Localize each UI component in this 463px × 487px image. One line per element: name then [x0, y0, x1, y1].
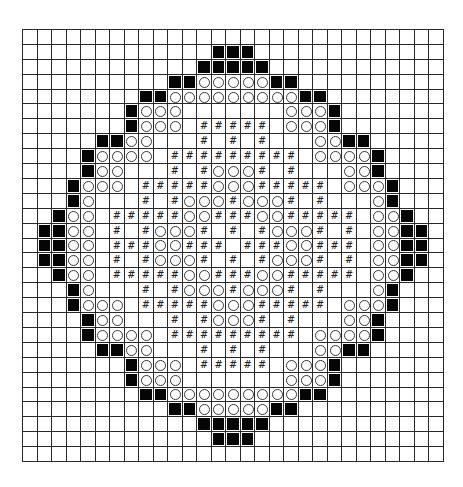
empty-cell [51, 416, 66, 431]
empty-cell [124, 446, 139, 461]
empty-cell [211, 133, 226, 148]
filled-square-icon [95, 133, 110, 148]
circle-icon [138, 372, 153, 387]
hash-icon [341, 223, 356, 238]
filled-square-icon [283, 401, 298, 416]
empty-cell [298, 342, 313, 357]
empty-cell [370, 59, 385, 74]
empty-cell [138, 44, 153, 59]
empty-cell [327, 74, 342, 89]
empty-cell [341, 357, 356, 372]
empty-cell [124, 89, 139, 104]
empty-cell [22, 208, 37, 223]
empty-cell [37, 282, 52, 297]
empty-cell [196, 431, 211, 446]
circle-icon [95, 312, 110, 327]
empty-cell [22, 193, 37, 208]
filled-square-icon [240, 431, 255, 446]
hash-icon [254, 133, 269, 148]
filled-square-icon [370, 163, 385, 178]
circle-icon [240, 312, 255, 327]
filled-square-icon [37, 252, 52, 267]
hash-icon [283, 297, 298, 312]
hash-icon [196, 297, 211, 312]
hash-icon [211, 208, 226, 223]
empty-cell [51, 44, 66, 59]
circle-icon [167, 252, 182, 267]
filled-square-icon [399, 208, 414, 223]
empty-cell [356, 223, 371, 238]
circle-icon [80, 297, 95, 312]
empty-cell [37, 163, 52, 178]
empty-cell [22, 163, 37, 178]
empty-cell [66, 401, 81, 416]
empty-cell [153, 342, 168, 357]
empty-cell [109, 118, 124, 133]
empty-cell [153, 193, 168, 208]
circle-icon [182, 223, 197, 238]
empty-cell [414, 133, 429, 148]
empty-cell [95, 416, 110, 431]
circle-icon [356, 178, 371, 193]
hash-icon [269, 297, 284, 312]
empty-cell [399, 372, 414, 387]
empty-cell [414, 416, 429, 431]
empty-cell [356, 238, 371, 253]
empty-cell [182, 163, 197, 178]
circle-icon [298, 103, 313, 118]
circle-icon [225, 163, 240, 178]
empty-cell [80, 118, 95, 133]
filled-square-icon [370, 327, 385, 342]
empty-cell [182, 133, 197, 148]
hash-icon [327, 267, 342, 282]
empty-cell [428, 133, 443, 148]
circle-icon [283, 372, 298, 387]
empty-cell [66, 327, 81, 342]
circle-icon [327, 327, 342, 342]
circle-icon [356, 312, 371, 327]
empty-cell [153, 29, 168, 44]
empty-cell [37, 312, 52, 327]
filled-square-icon [80, 327, 95, 342]
empty-cell [138, 446, 153, 461]
circle-icon [225, 387, 240, 402]
empty-cell [399, 44, 414, 59]
hash-icon [225, 342, 240, 357]
empty-cell [95, 193, 110, 208]
empty-cell [327, 401, 342, 416]
circle-icon [167, 223, 182, 238]
empty-cell [109, 401, 124, 416]
empty-cell [138, 29, 153, 44]
empty-cell [182, 59, 197, 74]
filled-square-icon [153, 89, 168, 104]
hash-icon [138, 223, 153, 238]
empty-cell [312, 29, 327, 44]
hash-icon [196, 148, 211, 163]
circle-icon [196, 193, 211, 208]
empty-cell [95, 431, 110, 446]
empty-cell [51, 312, 66, 327]
empty-cell [240, 446, 255, 461]
empty-cell [327, 223, 342, 238]
empty-cell [80, 387, 95, 402]
filled-square-icon [124, 357, 139, 372]
hash-icon [254, 312, 269, 327]
hash-icon [240, 208, 255, 223]
hash-icon [182, 297, 197, 312]
empty-cell [385, 148, 400, 163]
empty-cell [356, 29, 371, 44]
filled-square-icon [327, 118, 342, 133]
empty-cell [95, 59, 110, 74]
hash-icon [298, 297, 313, 312]
empty-cell [254, 29, 269, 44]
hash-icon [196, 133, 211, 148]
empty-cell [138, 401, 153, 416]
circle-icon [109, 163, 124, 178]
empty-cell [341, 118, 356, 133]
empty-cell [138, 59, 153, 74]
circle-icon [341, 148, 356, 163]
empty-cell [124, 297, 139, 312]
hash-icon [124, 238, 139, 253]
empty-cell [66, 312, 81, 327]
filled-square-icon [414, 238, 429, 253]
